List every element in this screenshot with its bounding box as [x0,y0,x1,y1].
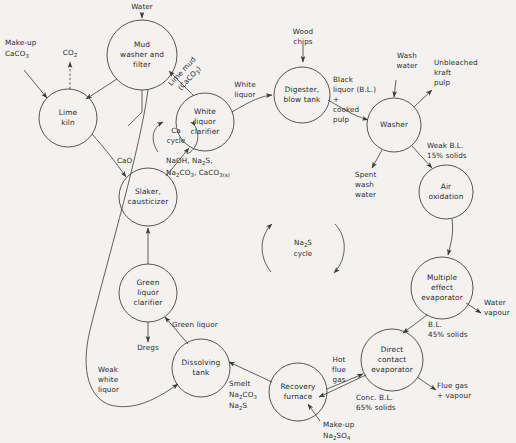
edge-mud-washer-stub [128,90,142,126]
node-label: effect [431,283,453,292]
label-hot-flue-gas: Hot [333,355,346,364]
label-black-liquor: liquor (B.L.) [333,85,376,94]
edge-weakwhite-to-dissolving-tank [110,384,178,407]
node-washer[interactable]: Washer [367,98,421,152]
node-label: evaporator [421,293,464,302]
node-digester-blow-tank[interactable]: Digester, blow tank [274,67,330,123]
label-weak-white-liquor: white [98,375,119,384]
node-green-liquor-clarifier[interactable]: Green liquor clarifier [119,264,177,322]
label-weak-bl: Weak B.L. [427,141,463,150]
label-makeup-na2so4: Make-up [323,420,355,429]
edge-dce-to-flue-gas [417,377,436,390]
label-water: Water [131,2,153,11]
label-bl45: B.L. [428,320,442,329]
label-hot-flue-gas: flue [332,365,346,374]
node-label: Green [137,278,160,287]
label-wood-chips: Wood [293,27,313,36]
node-direct-contact-evaporator[interactable]: Direct contact evaporator [361,329,423,391]
label-white-liquor: liquor [234,90,255,99]
node-label: Multiple [427,273,458,282]
node-label: White [194,107,216,116]
label-black-liquor: cooked [333,105,359,114]
na2s-cycle-label: cycle [294,249,313,258]
label-weak-bl: 15% solids [427,151,467,160]
label-hot-flue-gas: gas [332,375,345,384]
node-label: clarifier [134,298,164,307]
node-label: Dissolving [182,358,221,367]
label-wash-water: water [397,61,418,70]
label-white-liquor: White [234,80,256,89]
label-spent-wash-water: Spent [355,170,377,179]
node-label: Slaker, [135,187,161,196]
node-label: Mud [134,40,150,49]
edge-washer-to-spent-wash-water [372,150,382,168]
label-green-liquor: Green liquor [172,320,218,329]
ca-cycle-label: cycle [167,136,186,145]
label-spent-wash-water: wash [355,180,374,189]
process-flow-diagram: Mud washer and filter Lime kiln White li… [0,0,516,443]
label-flue-gas: + vapour [437,391,471,400]
node-label: liquor [137,288,160,297]
label-black-liquor: pulp [333,115,349,124]
node-label: contact [378,355,406,364]
node-recovery-furnace[interactable]: Recovery furnace [269,363,327,421]
label-makeup-na2so4: Na2SO4 [323,431,351,441]
node-label: Washer [380,120,409,129]
label-unbleached-pulp: pulp [434,78,450,87]
label-spent-wash-water: water [355,190,376,199]
label-causticizing-chems: NaOH, Na2S, [166,156,213,166]
na2s-cycle-label: Na2S [294,238,312,248]
label-flue-gas: Flue gas [437,381,468,390]
node-label: blow tank [284,95,322,104]
node-mud-washer[interactable]: Mud washer and filter [107,20,177,90]
label-wash-water: Wash [397,51,417,60]
node-label: washer and [120,50,164,59]
label-weak-white-liquor: liquor [98,385,119,394]
na2s-cycle-annotation: Na2S cycle [262,224,344,273]
edge-makeup-caco3-to-lime-kiln [24,70,47,98]
label-water-vapour: Water [484,298,506,307]
node-multiple-effect-evaporator[interactable]: Multiple effect evaporator [411,257,473,319]
label-smelt: Na2CO3 [229,390,257,400]
node-label: filter [133,60,152,69]
label-cao: CaO [117,156,133,165]
label-conc-bl: Conc. B.L. [356,393,393,402]
label-unbleached-pulp: Unbleached [434,58,478,67]
label-smelt: Na2S [229,401,248,411]
edge-air-oxidation-to-mee [448,219,453,255]
node-label: kiln [61,118,75,127]
label-causticizing-chems: Na2CO3, CaCO3(s) [166,168,230,178]
node-label: Direct [381,345,404,354]
label-conc-bl: 65% solids [356,403,396,412]
node-label: Recovery [280,382,316,391]
node-label: tank [193,368,210,377]
label-water-vapour: vapour [484,308,510,317]
node-label: evaporator [371,365,414,374]
edge-mud-washer-to-lime-kiln [86,79,117,99]
nodes-group: Mud washer and filter Lime kiln White li… [39,20,473,421]
node-dissolving-tank[interactable]: Dissolving tank [172,339,230,397]
label-unbleached-pulp: kraft [434,68,451,77]
node-label: liquor [194,117,217,126]
node-label: Digester, [285,85,320,94]
node-air-oxidation[interactable]: Air oxidation [419,165,473,219]
node-label: clarifier [191,127,221,136]
edge-weak-white-liquor-return [86,90,148,405]
node-label: Lime [59,108,78,117]
label-black-liquor: Black [333,75,354,84]
label-co2: CO2 [63,48,77,58]
label-bl45: 45% solids [428,330,468,339]
node-label: Air [441,182,452,191]
label-makeup-caco3: CaCO3 [5,49,29,59]
label-smelt: Smelt [229,379,250,388]
label-weak-white-liquor: Weak [98,365,119,374]
label-black-liquor: + [333,95,339,104]
node-label: causticizer [128,197,170,206]
edge-mee-to-dce [403,315,427,333]
node-label: furnace [284,392,313,401]
label-wood-chips: chips [293,37,312,46]
node-lime-kiln[interactable]: Lime kiln [39,89,97,147]
edges-group [24,12,481,421]
edge-washer-to-unbleached-pulp [414,90,432,107]
edge-wash-water-to-washer [394,80,396,97]
